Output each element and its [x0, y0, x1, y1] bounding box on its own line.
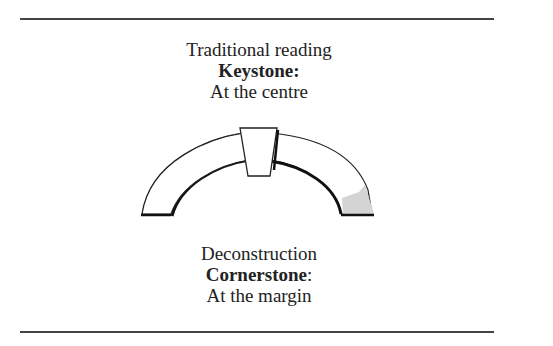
deconstruction-heading: Deconstruction — [0, 243, 518, 264]
deconstruction-label: Deconstruction Cornerstone: At the margi… — [0, 243, 518, 306]
keystone-block — [240, 128, 277, 176]
cornerstone-colon: : — [307, 264, 312, 285]
bottom-rule — [20, 331, 494, 333]
cornerstone-term: Cornerstone — [206, 264, 307, 285]
cornerstone-description: At the margin — [0, 285, 518, 306]
cornerstone-term-line: Cornerstone: — [0, 264, 518, 285]
arch-left-segment — [142, 133, 249, 214]
